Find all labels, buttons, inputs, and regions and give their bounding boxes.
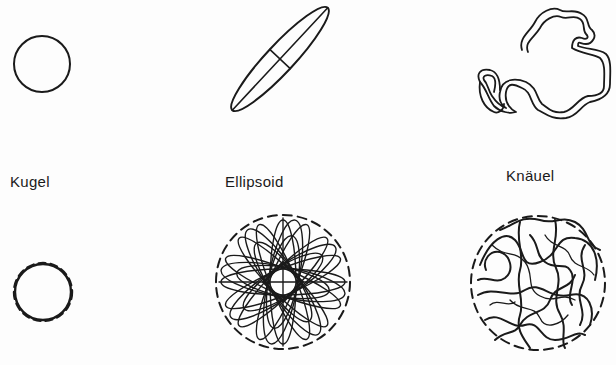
label-sphere: Kugel — [10, 173, 50, 190]
coil-averaged-shape — [471, 216, 605, 350]
sphere-averaged-shape — [14, 263, 72, 321]
ellipsoid-shape — [222, 0, 338, 120]
ellipsoid-averaged-shape — [216, 215, 350, 349]
sphere-shape — [14, 36, 70, 92]
label-coil: Knäuel — [506, 167, 555, 184]
coil-shape — [478, 9, 610, 119]
label-ellipsoid: Ellipsoid — [225, 173, 284, 190]
